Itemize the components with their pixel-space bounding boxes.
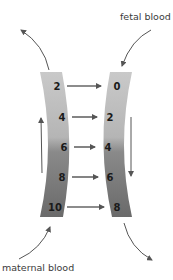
maternal-value: 2	[54, 81, 61, 92]
fetal-value: 8	[114, 202, 121, 213]
fetal-value: 0	[114, 81, 121, 92]
maternal-flow-up-arrow	[41, 118, 42, 173]
maternal-value: 10	[48, 202, 62, 213]
fetal-blood-label: fetal blood	[120, 11, 171, 22]
fetal-value: 2	[107, 112, 114, 123]
fetal-outflow-arrow	[124, 223, 152, 260]
maternal-outflow-arrow	[21, 30, 49, 70]
maternal-value: 4	[59, 112, 66, 123]
fetal-value: 4	[105, 142, 112, 153]
maternal-value: 8	[59, 172, 66, 183]
maternal-blood-label: maternal blood	[2, 262, 74, 273]
countercurrent-diagram: 2 4 6 8 10 0 2 4 6 8	[0, 0, 173, 280]
fetal-value: 6	[107, 172, 114, 183]
fetal-inflow-arrow	[122, 30, 151, 66]
maternal-inflow-arrow	[19, 227, 50, 259]
maternal-value: 6	[61, 142, 68, 153]
